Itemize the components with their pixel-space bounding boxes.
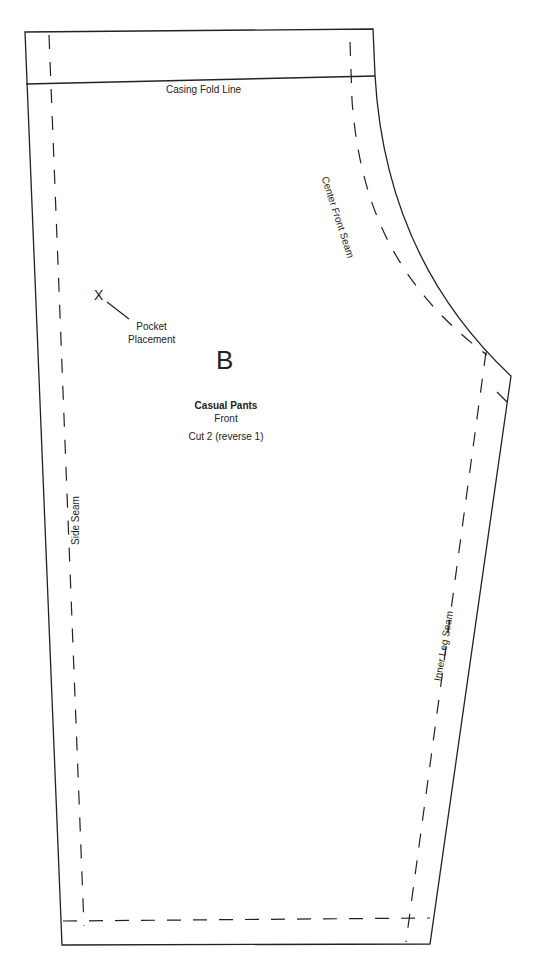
pocket-placement-mark: X — [94, 287, 103, 303]
side-seam-label: Side Seam — [70, 496, 81, 545]
cut-instruction: Cut 2 (reverse 1) — [176, 431, 276, 442]
casing-fold-line-label: Casing Fold Line — [166, 84, 241, 95]
pocket-placement-label: Pocket Placement — [128, 320, 175, 346]
crotch-stitch-line — [497, 392, 507, 402]
pattern-piece-letter: B — [216, 345, 233, 376]
pattern-title-block: Casual Pants Front Cut 2 (reverse 1) — [176, 399, 276, 442]
side-seam-stitch-line — [49, 35, 84, 926]
cutting-line-outline — [25, 29, 511, 945]
hem-stitch-line — [63, 918, 430, 921]
pocket-pointer-line — [107, 302, 129, 319]
pattern-title: Casual Pants — [176, 399, 276, 412]
pocket-placement-line1: Pocket — [128, 320, 175, 333]
pattern-piece-drawing — [0, 0, 533, 977]
casing-fold-line — [26, 76, 375, 84]
pocket-placement-line2: Placement — [128, 333, 175, 346]
center-front-seam-stitch-line — [350, 42, 487, 355]
pattern-subtitle: Front — [176, 412, 276, 425]
